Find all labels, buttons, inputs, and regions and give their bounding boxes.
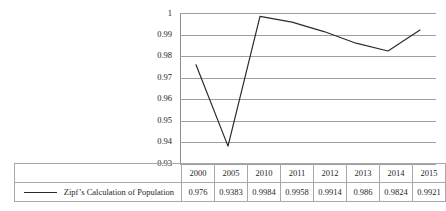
y-tick-label: 0.95 <box>157 116 172 125</box>
legend-spacer-cell <box>15 164 182 183</box>
y-tick-label: 0.97 <box>157 73 172 82</box>
column-header-cell: 2010 <box>248 164 281 183</box>
y-tick-label: 0.96 <box>157 94 172 103</box>
data-value-cell: 0.9383 <box>215 183 248 202</box>
column-header-cell: 2000 <box>182 164 215 183</box>
y-tick-label: 0.94 <box>157 137 172 146</box>
column-header-cell: 2005 <box>215 164 248 183</box>
y-tick-label: 1 <box>168 9 172 18</box>
y-tick-label: 0.98 <box>157 51 172 60</box>
data-value-cell: 0.9921 <box>413 183 446 202</box>
table-row-header: 2000 2005 2010 2011 2012 2013 2014 2015 <box>15 164 446 183</box>
data-value-cell: 0.9914 <box>314 183 347 202</box>
column-header-cell: 2011 <box>281 164 314 183</box>
column-header-cell: 2013 <box>347 164 380 183</box>
column-header-cell: 2015 <box>413 164 446 183</box>
data-value-cell: 0.986 <box>347 183 380 202</box>
data-value-cell: 0.9984 <box>248 183 281 202</box>
y-tick-label: 0.99 <box>157 30 172 39</box>
plot-area <box>180 13 436 164</box>
legend-entry: Zipf’s Calculation of Population <box>15 183 182 202</box>
column-header-cell: 2012 <box>314 164 347 183</box>
data-table: 2000 2005 2010 2011 2012 2013 2014 2015 … <box>14 163 436 200</box>
column-header-cell: 2014 <box>380 164 413 183</box>
series-line-zipfs-calculation-of-population <box>180 13 436 164</box>
table-row-values: Zipf’s Calculation of Population 0.976 0… <box>15 183 446 202</box>
data-value-cell: 0.976 <box>182 183 215 202</box>
data-value-cell: 0.9958 <box>281 183 314 202</box>
legend-series-label: Zipf’s Calculation of Population <box>64 187 174 197</box>
legend-line-swatch-icon <box>24 192 57 193</box>
data-value-cell: 0.9824 <box>380 183 413 202</box>
